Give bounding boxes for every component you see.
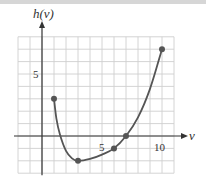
data-point [111,145,117,151]
data-point [123,133,129,139]
tick-label-y-5: 5 [33,68,39,80]
function-graph: h(v) v 5 10 5 [0,0,206,184]
x-axis-label: v [189,128,195,143]
data-point [51,96,57,102]
tick-label-x-10: 10 [154,141,166,153]
tick-label-x-5: 5 [99,141,105,153]
x-axis-arrow-icon [181,133,188,139]
y-axis-label: h(v) [33,6,54,21]
h-curve [54,49,162,161]
data-point [159,46,165,52]
y-axis-arrow-icon [39,21,45,28]
marked-points [51,46,165,164]
data-point [75,158,81,164]
